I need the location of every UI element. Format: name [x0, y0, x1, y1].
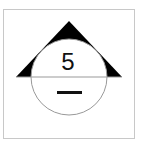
upper-value: 5 [61, 48, 74, 75]
symbol-diagram: 5 [0, 0, 142, 143]
lower-value-dash [57, 91, 82, 94]
